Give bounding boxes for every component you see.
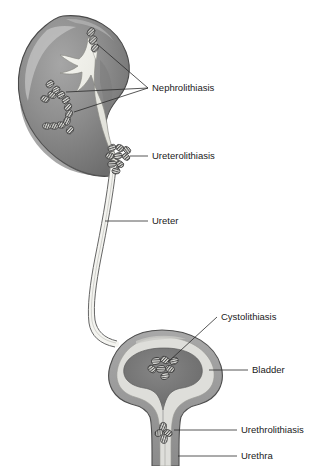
label-cystolithiasis: Cystolithiasis bbox=[221, 311, 277, 322]
ureter bbox=[88, 168, 117, 347]
urinary-calculi-diagram: Nephrolithiasis Ureterolithiasis Ureter … bbox=[0, 0, 314, 466]
label-urethrolithiasis: Urethrolithiasis bbox=[241, 424, 304, 435]
label-urethra: Urethra bbox=[241, 450, 273, 461]
diagram-canvas: Nephrolithiasis Ureterolithiasis Ureter … bbox=[0, 0, 314, 466]
label-ureter: Ureter bbox=[152, 215, 178, 226]
kidney bbox=[18, 16, 129, 177]
label-bladder: Bladder bbox=[252, 364, 285, 375]
label-nephrolithiasis: Nephrolithiasis bbox=[152, 82, 215, 93]
label-ureterolithiasis: Ureterolithiasis bbox=[152, 150, 215, 161]
bladder bbox=[109, 330, 223, 466]
